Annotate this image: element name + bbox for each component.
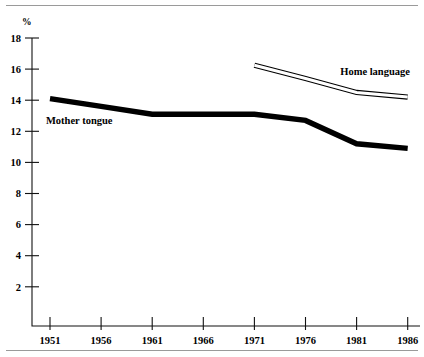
y-tick-label-6: 6 (16, 219, 21, 230)
y-tick-label-14: 14 (11, 95, 22, 106)
y-tick-label-16: 16 (11, 64, 22, 75)
y-tick-label-10: 10 (11, 157, 22, 168)
series-label-mother-tongue: Mother tongue (46, 115, 113, 126)
x-tick-label-1966: 1966 (193, 335, 214, 346)
x-tick-label-1961: 1961 (142, 335, 163, 346)
axes-group (25, 38, 420, 330)
x-axis-line (32, 318, 420, 326)
series-label-home-language: Home language (340, 66, 410, 77)
y-tick-label-2: 2 (16, 282, 21, 293)
figure-container: 2468101214161819511956196119661971197619… (0, 0, 424, 357)
y-tick-label-18: 18 (11, 33, 22, 44)
y-axis-unit-label: % (22, 17, 32, 27)
labels-group: 2468101214161819511956196119661971197619… (11, 17, 419, 346)
x-tick-label-1976: 1976 (295, 335, 316, 346)
x-tick-label-1981: 1981 (346, 335, 367, 346)
line-chart: 2468101214161819511956196119661971197619… (0, 0, 424, 357)
y-tick-label-8: 8 (16, 188, 21, 199)
y-tick-label-12: 12 (11, 126, 22, 137)
x-tick-label-1951: 1951 (40, 335, 61, 346)
x-tick-label-1986: 1986 (397, 335, 418, 346)
y-tick-label-4: 4 (16, 250, 22, 261)
x-tick-label-1971: 1971 (244, 335, 265, 346)
series-group (50, 65, 408, 148)
x-tick-label-1956: 1956 (91, 335, 112, 346)
